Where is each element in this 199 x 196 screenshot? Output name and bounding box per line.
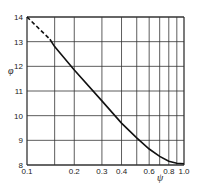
y-tick-label: 13 — [14, 38, 23, 47]
x-tick-label: 0.8 — [163, 167, 175, 176]
x-tick-label: 0.4 — [116, 167, 128, 176]
x-tick-label: 0.1 — [21, 167, 33, 176]
x-tick-label: 0.3 — [96, 167, 108, 176]
chart: 8910111213140.10.20.30.40.60.81.0 φ ψ — [0, 0, 199, 196]
series-curve — [50, 39, 184, 164]
series-extrapolated — [27, 17, 50, 39]
x-tick-label: 0.6 — [144, 167, 156, 176]
x-tick-label: 1.0 — [178, 167, 190, 176]
y-tick-label: 9 — [19, 136, 24, 145]
series — [27, 17, 184, 164]
y-axis-label: φ — [8, 65, 14, 76]
x-tick-label: 0.2 — [69, 167, 81, 176]
y-tick-label: 10 — [14, 112, 23, 121]
y-tick-label: 14 — [14, 13, 23, 22]
y-tick-label: 11 — [15, 87, 24, 96]
y-tick-label: 12 — [14, 62, 23, 71]
x-axis-label: ψ — [157, 172, 164, 183]
